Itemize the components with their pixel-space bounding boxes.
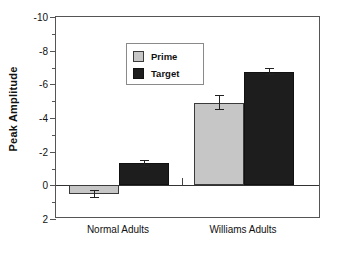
- legend-label-prime: Prime: [151, 51, 177, 62]
- error-bar-prime-normal-adults: [94, 190, 95, 198]
- y-tick--4: [50, 118, 56, 119]
- error-cap-top: [140, 160, 149, 161]
- y-tick-label--6: -6: [39, 79, 48, 90]
- group-separator-tick: [182, 178, 183, 185]
- error-bar-target-normal-adults: [144, 160, 145, 167]
- y-minor-tick: [52, 169, 56, 170]
- plot-area: -10-8-6-4-202 Prime Target: [55, 16, 320, 218]
- error-cap-top: [265, 68, 274, 69]
- legend-item-prime: Prime: [133, 49, 197, 64]
- error-cap-bottom: [265, 74, 274, 75]
- y-tick-label-2: 2: [42, 214, 48, 225]
- bar-target-williams-adults: [244, 72, 294, 186]
- legend-label-target: Target: [151, 68, 179, 79]
- y-tick-label--10: -10: [34, 12, 48, 23]
- y-tick--8: [50, 51, 56, 52]
- y-minor-tick: [52, 34, 56, 35]
- y-tick--6: [50, 84, 56, 85]
- y-tick-label-0: 0: [42, 180, 48, 191]
- error-cap-top: [90, 190, 99, 191]
- y-axis-title: Peak Amplitude: [2, 0, 24, 218]
- y-tick-label--4: -4: [39, 113, 48, 124]
- prime-swatch-icon: [133, 51, 144, 62]
- y-minor-tick: [52, 68, 56, 69]
- error-bar-prime-williams-adults: [219, 95, 220, 110]
- bar-prime-williams-adults: [194, 103, 244, 185]
- x-tick-label-williams-adults: Williams Adults: [209, 224, 276, 235]
- error-cap-bottom: [215, 109, 224, 110]
- legend-item-target: Target: [133, 66, 197, 81]
- target-swatch-icon: [133, 68, 144, 79]
- y-tick-2: [50, 219, 56, 220]
- y-tick-label--2: -2: [39, 146, 48, 157]
- y-tick--2: [50, 152, 56, 153]
- y-tick--10: [50, 17, 56, 18]
- y-minor-tick: [52, 101, 56, 102]
- y-tick-label--8: -8: [39, 45, 48, 56]
- y-minor-tick: [52, 202, 56, 203]
- figure: Peak Amplitude -10-8-6-4-202 Prime Targe…: [0, 0, 338, 256]
- y-axis-title-text: Peak Amplitude: [7, 67, 19, 152]
- legend: Prime Target: [126, 43, 204, 85]
- y-minor-tick: [52, 135, 56, 136]
- x-tick-label-normal-adults: Normal Adults: [87, 224, 149, 235]
- error-cap-top: [215, 95, 224, 96]
- error-bar-target-williams-adults: [269, 68, 270, 75]
- error-cap-bottom: [140, 166, 149, 167]
- error-cap-bottom: [90, 197, 99, 198]
